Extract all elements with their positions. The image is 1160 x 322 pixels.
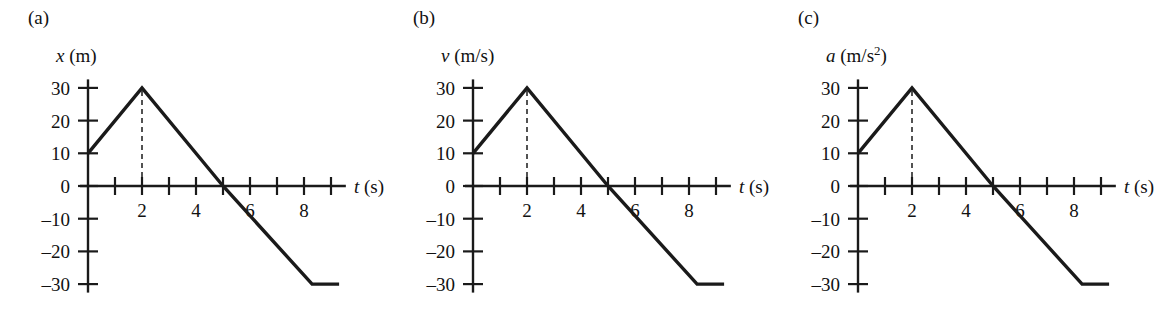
x-axis-unit-b: (s)	[744, 176, 769, 198]
y-tick-label-b-20: 20	[436, 111, 455, 132]
x-axis-title-b: t (s)	[739, 176, 769, 198]
plot-area-b: 24683020100–10–20–30t (s)	[385, 0, 771, 322]
x-tick-label-a-4: 4	[191, 200, 201, 221]
x-tick-label-c-2: 2	[907, 200, 917, 221]
y-tick-label-b--20: –20	[426, 241, 456, 262]
y-tick-label-a-20: 20	[51, 111, 70, 132]
x-tick-label-c-4: 4	[961, 200, 971, 221]
panel-c: (c) a (m/s2) 24683020100–10–20–30t (s)	[770, 0, 1156, 322]
y-tick-label-b-10: 10	[436, 143, 455, 164]
y-tick-label-c--30: –30	[811, 274, 841, 295]
panel-b: (b) v (m/s) 24683020100–10–20–30t (s)	[385, 0, 771, 322]
x-axis-title-c: t (s)	[1124, 176, 1154, 198]
y-tick-label-c--20: –20	[811, 241, 841, 262]
y-tick-label-b--30: –30	[426, 274, 456, 295]
y-tick-label-c--10: –10	[811, 209, 841, 230]
x-tick-label-b-8: 8	[684, 200, 694, 221]
x-tick-label-b-4: 4	[576, 200, 586, 221]
y-tick-label-a-10: 10	[51, 143, 70, 164]
x-tick-label-a-2: 2	[137, 200, 147, 221]
y-tick-label-c-20: 20	[821, 111, 840, 132]
y-tick-label-a--20: –20	[41, 241, 71, 262]
y-tick-label-a-30: 30	[51, 78, 70, 99]
y-tick-label-c-30: 30	[821, 78, 840, 99]
x-tick-label-a-8: 8	[299, 200, 309, 221]
three-panel-kinematics-figure: (a) x (m) 24683020100–10–20–30t (s) (b) …	[0, 0, 1160, 322]
y-tick-label-c-0: 0	[831, 176, 841, 197]
x-axis-unit-a: (s)	[359, 176, 384, 198]
panel-a: (a) x (m) 24683020100–10–20–30t (s)	[0, 0, 386, 322]
y-tick-label-a--10: –10	[41, 209, 71, 230]
x-axis-title-a: t (s)	[354, 176, 384, 198]
y-tick-label-b-0: 0	[446, 176, 456, 197]
plot-area-a: 24683020100–10–20–30t (s)	[0, 0, 386, 322]
y-tick-label-b-30: 30	[436, 78, 455, 99]
x-axis-unit-c: (s)	[1129, 176, 1154, 198]
y-tick-label-a-0: 0	[61, 176, 71, 197]
x-tick-label-b-2: 2	[522, 200, 532, 221]
y-tick-label-a--30: –30	[41, 274, 71, 295]
y-tick-label-c-10: 10	[821, 143, 840, 164]
y-tick-label-b--10: –10	[426, 209, 456, 230]
plot-area-c: 24683020100–10–20–30t (s)	[770, 0, 1156, 322]
x-tick-label-c-8: 8	[1069, 200, 1079, 221]
